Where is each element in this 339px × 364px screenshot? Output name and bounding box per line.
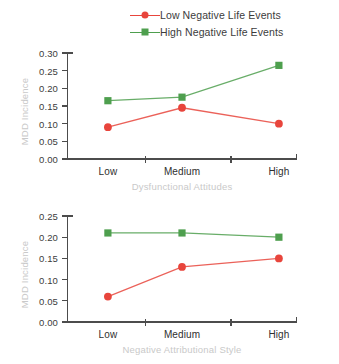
series-layer-bottom — [0, 207, 339, 364]
x-tick-mark — [145, 156, 146, 163]
legend-label-high: High Negative Life Events — [160, 26, 283, 38]
chart-legend: Low Negative Life Events High Negative L… — [130, 8, 283, 39]
x-tick-label-high: High — [268, 166, 289, 177]
data-point-marker — [275, 120, 283, 128]
series-line — [108, 65, 279, 100]
legend-item-high-negative-life-events: High Negative Life Events — [130, 25, 283, 39]
x-axis-title-top: Dysfunctional Attitudes — [68, 181, 296, 192]
x-tick-label-medium: Medium — [164, 329, 200, 340]
x-axis-end-cap — [67, 317, 68, 323]
series-line — [108, 108, 279, 127]
x-axis-end-cap — [296, 317, 297, 323]
series-line — [108, 233, 279, 237]
x-tick-mark — [145, 319, 146, 326]
x-tick-label-low: Low — [99, 329, 118, 340]
x-axis-title-bottom: Negative Attributional Style — [68, 344, 296, 355]
data-point-marker — [178, 263, 186, 271]
data-point-marker — [275, 234, 282, 241]
legend-item-low-negative-life-events: Low Negative Life Events — [130, 8, 283, 22]
figure: Low Negative Life Events High Negative L… — [0, 0, 339, 364]
data-point-marker — [104, 97, 111, 104]
x-tick-label-low: Low — [99, 166, 118, 177]
x-axis-end-cap — [67, 154, 68, 160]
chart-panel-negative-attributional-style: MDD Incidence 0.000.050.100.150.200.25 L… — [0, 207, 339, 364]
legend-marker-square-icon — [130, 26, 160, 38]
legend-marker-circle-icon — [130, 9, 160, 21]
x-axis-line-bottom — [67, 321, 296, 322]
x-axis-end-cap — [296, 154, 297, 160]
chart-panel-dysfunctional-attitudes: MDD Incidence 0.000.050.100.150.200.250.… — [0, 44, 339, 194]
series-line — [108, 258, 279, 296]
x-axis-line-top — [67, 158, 296, 159]
x-tick-label-medium: Medium — [164, 166, 200, 177]
data-point-marker — [104, 123, 112, 131]
data-point-marker — [178, 229, 185, 236]
data-point-marker — [178, 94, 185, 101]
legend-label-low: Low Negative Life Events — [160, 9, 281, 21]
data-point-marker — [104, 229, 111, 236]
data-point-marker — [275, 62, 282, 69]
x-tick-mark — [230, 319, 231, 326]
x-tick-mark — [230, 156, 231, 163]
x-tick-label-high: High — [268, 329, 289, 340]
data-point-marker — [275, 255, 283, 263]
data-point-marker — [178, 104, 186, 112]
data-point-marker — [104, 293, 112, 301]
